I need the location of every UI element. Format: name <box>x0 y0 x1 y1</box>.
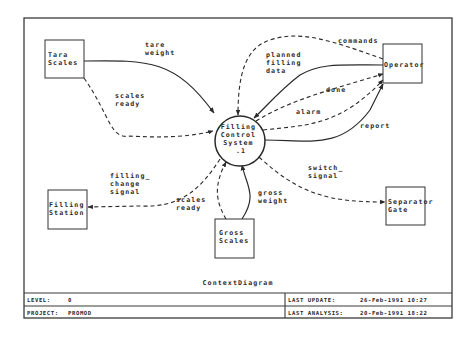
label-planned-filling-data: planned filling data <box>266 51 307 75</box>
label-done: done <box>326 86 346 94</box>
label-switch-signal: switch_ signal <box>308 164 349 180</box>
flow-gross-weight[interactable] <box>242 165 250 219</box>
terminator-gross-scales[interactable]: Gross Scales <box>215 219 254 258</box>
flow-report[interactable] <box>265 84 383 141</box>
flow-scales-ready-gross[interactable] <box>217 162 226 219</box>
title-block: LEVEL: 0 PROJECT: PROMOD LAST UPDATE: 26… <box>24 293 452 318</box>
process-filling-control-system[interactable]: Filling Control System .1 <box>215 116 265 166</box>
last-analysis-value: 20-Feb-1991 18:22 <box>360 310 427 316</box>
last-update-label: LAST UPDATE: <box>288 297 336 303</box>
label-commands: commands <box>338 37 379 45</box>
terminator-label: Operator <box>384 61 425 69</box>
terminator-tara-scales[interactable]: Tara Scales <box>45 40 84 78</box>
terminator-separator-gate[interactable]: Separator Gate <box>386 187 439 225</box>
label-alarm: alarm <box>296 108 321 116</box>
terminator-operator[interactable]: Operator <box>383 44 425 83</box>
flow-commands[interactable] <box>238 36 383 115</box>
project-label: PROJECT: <box>27 310 59 316</box>
label-scales-ready-tara: scales ready <box>115 92 151 108</box>
diagram-title: ContextDiagram <box>203 279 274 287</box>
label-filling-change-signal: filling_ change signal <box>110 172 156 196</box>
label-report: report <box>360 122 390 130</box>
flow-scales-ready-tara[interactable] <box>84 78 213 137</box>
label-scales-ready-gross: scales ready <box>176 196 212 212</box>
terminator-label: Filling Station <box>49 201 90 217</box>
level-value: 0 <box>68 297 72 303</box>
level-label: LEVEL: <box>27 297 51 303</box>
context-diagram: tare weight scales ready commands planne… <box>0 0 474 338</box>
label-tare-weight: tare weight <box>145 41 175 57</box>
last-analysis-label: LAST ANALYSIS: <box>288 310 344 316</box>
project-value: PROMOD <box>68 310 92 316</box>
flow-tare-weight[interactable] <box>84 61 214 113</box>
label-gross-weight: gross weight <box>258 189 288 205</box>
terminator-label: Gross Scales <box>219 229 249 245</box>
last-update-value: 26-Feb-1991 10:27 <box>360 297 427 303</box>
terminator-filling-station[interactable]: Filling Station <box>48 190 90 229</box>
